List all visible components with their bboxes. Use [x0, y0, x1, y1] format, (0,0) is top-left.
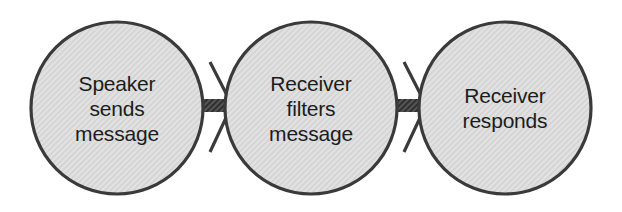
node-circle: [31, 22, 203, 194]
node-receiver-filters-message: [225, 22, 397, 194]
nodes-layer: [31, 22, 591, 194]
node-speaker-sends-message: [31, 22, 203, 194]
diagram-canvas: Speaker sends messageReceiver filters me…: [0, 0, 622, 212]
diagram-svg: [0, 0, 622, 212]
node-circle: [419, 22, 591, 194]
node-circle: [225, 22, 397, 194]
node-receiver-responds: [419, 22, 591, 194]
